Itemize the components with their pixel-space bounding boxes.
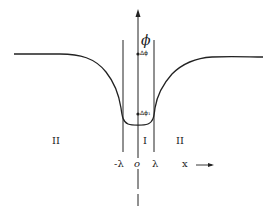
region-center-label: I bbox=[143, 136, 147, 146]
delta-phi1-label: Δϕ₁ bbox=[140, 110, 150, 116]
region-right-label: II bbox=[176, 136, 184, 146]
x-axis-label: x bbox=[182, 159, 188, 169]
potential-profile-diagram bbox=[0, 0, 273, 211]
phi-axis-arrow-icon bbox=[136, 9, 141, 17]
x-axis-arrow-icon bbox=[208, 163, 214, 167]
minus-lambda-label: -λ bbox=[114, 159, 124, 169]
phi-axis-label: ϕ bbox=[141, 33, 151, 47]
lambda-label: λ bbox=[152, 159, 158, 169]
delta-phi-label: Δϕ bbox=[140, 50, 148, 56]
region-left-label: II bbox=[52, 136, 60, 146]
origin-label: o bbox=[134, 159, 140, 169]
